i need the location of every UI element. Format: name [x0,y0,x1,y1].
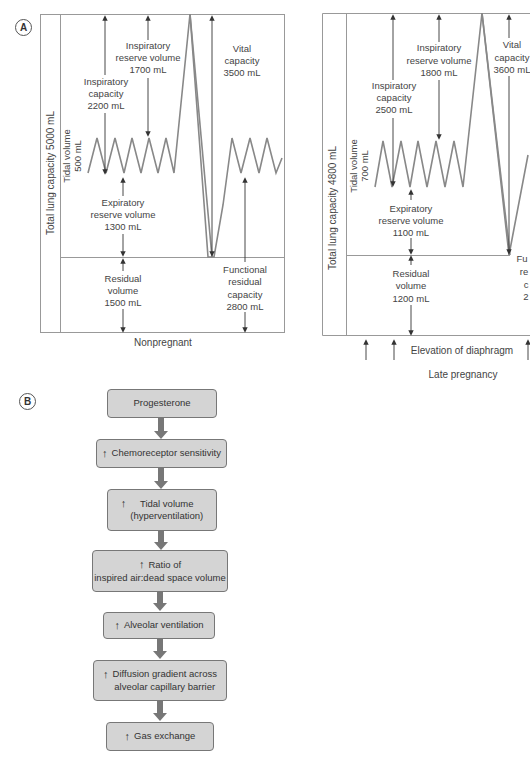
late-pregnancy-labels: Total lung capacity 4800 mL Tidal volume… [327,39,530,380]
expiratory-reserve-volume-label: Expiratory [102,197,145,208]
svg-text:2: 2 [523,291,528,302]
svg-text:2200 mL: 2200 mL [88,100,125,111]
inspiratory-capacity-label-pregnancy: Inspiratory [372,80,417,91]
svg-text:1300 mL: 1300 mL [105,221,142,232]
nonpregnant-spirogram: Total lung capacity 5000 mL Tidal volume… [0,0,530,757]
increase-arrow-icon: ↑ [125,730,131,743]
diaphragm-elevation-label: Elevation of diaphragm [411,345,513,356]
inspiratory-reserve-volume-label-pregnancy: Inspiratory [417,42,462,53]
svg-text:c: c [524,279,529,290]
flow-step-line: Ratio of [148,559,181,570]
inspiratory-capacity-label: Inspiratory [84,76,129,87]
svg-text:reserve volume: reserve volume [379,215,444,226]
flow-step-label: Alveolar ventilation [124,619,204,632]
flow-step-label: ↑Ratio of inspired air:dead space volume [94,558,226,584]
svg-text:2500 mL: 2500 mL [376,104,413,115]
tidal-volume-label: Tidal volume [61,129,72,183]
residual-volume-label: Residual [105,273,142,284]
flow-step-line: (hyperventilation) [130,510,203,523]
svg-text:700 mL: 700 mL [359,150,370,182]
functional-residual-capacity-label: Functional [223,264,267,275]
flow-step-tidal-volume: ↑ Tidal volume (hyperventilation) [107,489,217,531]
svg-text:1500 mL: 1500 mL [105,297,142,308]
inspiratory-reserve-volume-label: Inspiratory [126,40,171,51]
flow-step-alveolar-ventilation: ↑ Alveolar ventilation [103,612,215,639]
flow-step-gas-exchange: ↑ Gas exchange [106,722,214,751]
panel-b-label: B [19,393,36,410]
expiratory-reserve-volume-label-pregnancy: Expiratory [390,203,433,214]
total-lung-capacity-label: Total lung capacity 5000 mL [45,111,56,235]
svg-text:residual: residual [228,276,261,287]
svg-text:capacity: capacity [225,55,260,66]
increase-arrow-icon: ↑ [103,668,109,681]
increase-arrow-icon: ↑ [102,447,108,460]
svg-text:reserve volume: reserve volume [407,55,472,66]
flow-step-chemoreceptor-sensitivity: ↑ Chemoreceptor sensitivity [96,439,227,468]
vital-capacity-label: Vital [233,43,251,54]
svg-text:volume: volume [108,285,139,296]
svg-text:capacity: capacity [495,52,530,63]
nonpregnant-caption: Nonpregnant [134,337,192,348]
increase-arrow-icon: ↑ [139,558,145,570]
flow-step-line: Diffusion gradient across [113,668,217,681]
svg-text:1100 mL: 1100 mL [393,227,429,238]
svg-text:1800 mL: 1800 mL [421,67,458,78]
svg-text:volume: volume [396,280,427,291]
vital-capacity-label-pregnancy: Vital [503,39,521,50]
increase-arrow-icon: ↑ [114,619,120,632]
flow-step-line: inspired air:dead space volume [94,572,226,585]
flow-step-diffusion-gradient: ↑ Diffusion gradient across alveolar cap… [93,660,227,701]
svg-text:1200 mL: 1200 mL [393,293,430,304]
svg-text:1700 mL: 1700 mL [130,64,167,75]
flow-step-line: alveolar capillary barrier [113,681,217,694]
flow-step-label: Diffusion gradient across alveolar capil… [113,668,217,693]
flow-step-line: Tidal volume [130,498,203,511]
svg-text:3500 mL: 3500 mL [224,67,261,78]
svg-text:500 mL: 500 mL [72,140,83,172]
flow-step-progesterone: Progesterone [107,389,217,418]
tidal-volume-label-pregnancy: Tidal volume [348,139,359,193]
svg-text:capacity: capacity [89,88,124,99]
svg-text:reserve volume: reserve volume [116,52,181,63]
total-lung-capacity-label-pregnancy: Total lung capacity 4800 mL [327,146,338,270]
flow-step-label: Progesterone [133,397,190,410]
svg-text:capacity: capacity [228,289,263,300]
late-pregnancy-caption: Late pregnancy [429,369,498,380]
flow-step-label: Tidal volume (hyperventilation) [130,498,203,523]
svg-text:re: re [520,266,528,277]
svg-text:reserve volume: reserve volume [91,209,156,220]
flow-step-label: Gas exchange [134,730,195,743]
svg-text:2800 mL: 2800 mL [227,301,264,312]
residual-volume-label-pregnancy: Residual [393,268,430,279]
flow-step-ratio-inspired-air: ↑Ratio of inspired air:dead space volume [92,550,228,592]
svg-text:3600 mL: 3600 mL [494,64,530,75]
svg-text:capacity: capacity [377,92,412,103]
increase-arrow-icon: ↑ [121,497,127,510]
flow-step-label: Chemoreceptor sensitivity [112,447,221,460]
functional-residual-capacity-label-pregnancy: Fu [516,253,527,264]
